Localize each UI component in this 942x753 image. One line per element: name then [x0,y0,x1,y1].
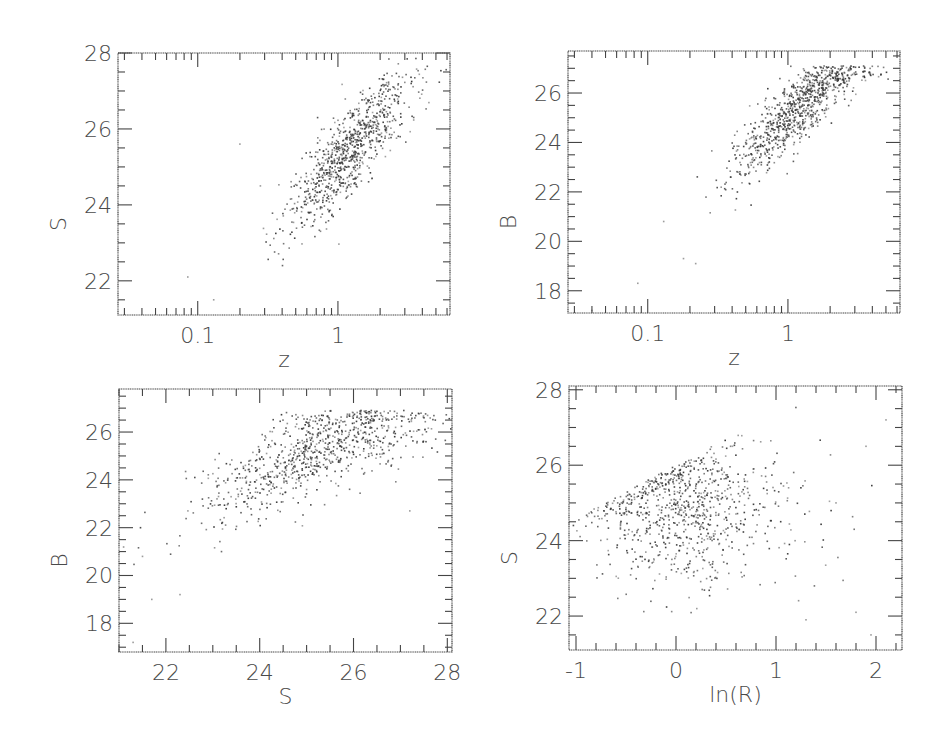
x-tick-label: -1 [565,658,587,683]
y-tick-label: 24 [534,130,562,155]
figure: 0.1122242628zS0.111820222426zB2224262818… [0,0,942,753]
y-tick-label: 20 [85,563,113,588]
ticks [568,51,900,313]
y-tick-label: 22 [84,269,112,294]
x-tick-label: 0.1 [180,323,215,348]
x-tick-label: 1 [781,321,795,346]
y-axis-label: S [497,551,522,565]
y-tick-label: 24 [84,193,112,218]
x-tick-label: 1 [769,658,783,683]
x-axis-label: z [278,347,290,372]
x-axis-label: z [728,345,740,370]
y-tick-label: 24 [85,468,113,493]
scatter-points [123,410,452,643]
scatter-points [187,58,447,301]
x-axis-label: ln(R) [709,682,762,707]
x-tick-label: 2 [869,658,883,683]
scatter-points [568,407,887,636]
y-tick-label: 26 [535,453,563,478]
y-tick-label: 20 [534,229,562,254]
x-tick-label: 1 [331,323,345,348]
y-axis-label: B [496,215,521,229]
y-tick-label: 26 [534,81,562,106]
axes-frame [569,386,902,650]
y-tick-label: 22 [85,516,113,541]
y-axis-label: B [47,553,72,567]
y-axis-label: S [46,217,71,231]
panel-bottom-right: -101222242628ln(R)S [497,378,902,707]
figure-canvas: 0.1122242628zS0.111820222426zB2224262818… [0,0,942,753]
y-tick-label: 18 [85,611,113,636]
x-tick-label: 0.1 [630,321,665,346]
x-tick-label: 26 [340,660,368,685]
x-tick-label: 28 [433,660,461,685]
x-tick-label: 22 [152,660,180,685]
panel-top-left: 0.1122242628zS [46,41,450,372]
x-axis-label: S [279,684,293,709]
axes-frame [568,51,900,313]
y-tick-label: 26 [84,117,112,142]
panel-top-right: 0.111820222426zB [496,51,900,370]
scatter-points [591,65,889,311]
y-tick-label: 28 [84,41,112,66]
y-tick-label: 26 [85,420,113,445]
y-tick-label: 28 [535,378,563,403]
panel-bottom-left: 222426281820222426SB [47,389,461,709]
ticks [569,386,902,650]
y-tick-label: 22 [535,604,563,629]
x-tick-label: 0 [669,658,683,683]
y-tick-label: 18 [534,279,562,304]
x-tick-label: 24 [246,660,274,685]
y-tick-label: 24 [535,529,563,554]
y-tick-label: 22 [534,180,562,205]
